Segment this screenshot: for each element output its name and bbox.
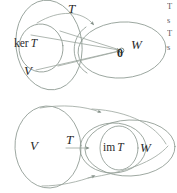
margin-text-line-2: s [167, 14, 177, 28]
kernel-label: kerT [14, 38, 37, 50]
top-domain-label-V: V [24, 64, 32, 77]
top-map-arrow-T [37, 13, 93, 24]
figure-container: T kerT V 0 W V T imT W T s T s [0, 0, 177, 193]
kernel-arrow-tail-a [60, 31, 120, 50]
bottom-codomain-ellipse-W [84, 118, 176, 177]
margin-text-line-4: s [167, 41, 177, 55]
image-label-op: im [103, 141, 115, 153]
top-codomain-label-W: W [131, 38, 142, 51]
bottom-domain-ellipse-V [13, 104, 83, 189]
zero-vector-label: 0 [117, 47, 123, 59]
margin-text-line-1: T [167, 0, 177, 14]
bottom-envelope-arrow-upper [40, 106, 100, 112]
bottom-domain-label-V: V [30, 139, 38, 152]
margin-text-column: T s T s [167, 0, 177, 62]
bottom-codomain-label-W: W [140, 141, 151, 154]
bottom-map-label-T: T [66, 133, 73, 146]
kernel-label-var: T [31, 37, 37, 49]
image-label-var: T [117, 141, 123, 153]
margin-text-line-3: T [167, 27, 177, 41]
kernel-arrow-upper [31, 35, 119, 50]
kernel-label-op: ker [14, 37, 29, 49]
kernel-arrow-tail-b [58, 51, 120, 66]
top-map-label-T: T [68, 2, 75, 15]
bottom-envelope-arrow-lower [42, 176, 94, 186]
figure-svg [0, 0, 177, 193]
image-label: imT [103, 142, 124, 154]
